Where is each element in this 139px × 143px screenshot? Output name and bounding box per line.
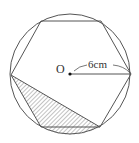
center-point <box>68 72 71 75</box>
diagram-canvas: O 6cm <box>0 0 139 143</box>
radius-label: 6cm <box>88 58 107 70</box>
radius-brace-left <box>74 65 87 71</box>
shaded-region <box>11 75 100 135</box>
radius-brace-right <box>113 65 130 73</box>
geometry-diagram: O 6cm <box>0 0 139 143</box>
center-label: O <box>56 62 65 76</box>
